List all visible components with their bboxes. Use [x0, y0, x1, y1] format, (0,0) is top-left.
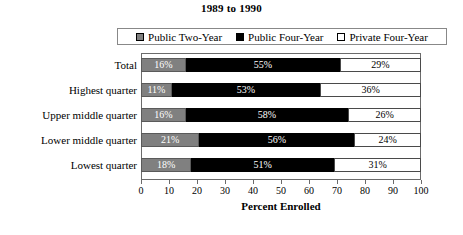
bar-segment-private-four-year[interactable]: 24%: [354, 133, 421, 147]
bar-segment-private-four-year[interactable]: 36%: [320, 83, 421, 97]
legend-label-public-two-year: Public Two-Year: [148, 31, 222, 43]
chart-legend: Public Two-Year Public Four-Year Private…: [117, 28, 447, 45]
x-axis-tick: [141, 180, 142, 184]
x-axis-tick-label: 100: [401, 185, 441, 197]
category-label: Lower middle quarter: [0, 133, 137, 147]
x-axis-tick: [421, 180, 422, 184]
legend-label-private-four-year: Private Four-Year: [349, 31, 427, 43]
bar-row[interactable]: 21%56%24%: [141, 133, 421, 147]
legend-entry-public-four-year: Public Four-Year: [236, 31, 323, 43]
chart-title: 1989 to 1990: [0, 2, 463, 14]
bar-segment-public-four-year[interactable]: 58%: [186, 108, 348, 122]
bar-segment-public-two-year[interactable]: 16%: [141, 58, 186, 72]
x-axis-tick: [197, 180, 198, 184]
x-axis-tick-labels: 0102030405060708090100: [121, 185, 441, 199]
x-axis-tick: [253, 180, 254, 184]
bar-row[interactable]: 11%53%36%: [141, 83, 421, 97]
legend-swatch-icon-public-four-year: [236, 33, 244, 41]
legend-label-public-four-year: Public Four-Year: [248, 31, 323, 43]
x-axis-tick: [169, 180, 170, 184]
bar-segment-public-two-year[interactable]: 11%: [141, 83, 172, 97]
bar-segment-public-four-year[interactable]: 56%: [199, 133, 354, 147]
bar-segment-private-four-year[interactable]: 29%: [340, 58, 421, 72]
x-axis-tick: [365, 180, 366, 184]
category-label: Total: [0, 58, 137, 72]
bar-row[interactable]: 16%55%29%: [141, 58, 421, 72]
legend-entry-public-two-year: Public Two-Year: [136, 31, 222, 43]
x-axis-tick: [337, 180, 338, 184]
bars-layer: 16%55%29%11%53%36%16%58%26%21%56%24%18%5…: [141, 53, 421, 180]
category-label: Lowest quarter: [0, 158, 137, 172]
bar-row[interactable]: 16%58%26%: [141, 108, 421, 122]
bar-segment-private-four-year[interactable]: 26%: [348, 108, 421, 122]
bar-segment-public-four-year[interactable]: 51%: [191, 158, 334, 172]
bar-segment-public-two-year[interactable]: 16%: [141, 108, 186, 122]
bar-row[interactable]: 18%51%31%: [141, 158, 421, 172]
x-axis-tick: [309, 180, 310, 184]
category-label: Upper middle quarter: [0, 108, 137, 122]
x-axis-tick: [393, 180, 394, 184]
x-axis-title: Percent Enrolled: [141, 200, 421, 212]
x-axis-tick: [281, 180, 282, 184]
x-axis-tick: [225, 180, 226, 184]
bar-segment-public-four-year[interactable]: 53%: [172, 83, 320, 97]
bar-segment-public-four-year[interactable]: 55%: [186, 58, 340, 72]
legend-swatch-icon-private-four-year: [337, 33, 345, 41]
legend-swatch-icon-public-two-year: [136, 33, 144, 41]
bar-segment-private-four-year[interactable]: 31%: [334, 158, 421, 172]
category-axis-labels: TotalHighest quarterUpper middle quarter…: [0, 53, 137, 180]
bar-segment-public-two-year[interactable]: 21%: [141, 133, 199, 147]
category-label: Highest quarter: [0, 83, 137, 97]
bar-segment-public-two-year[interactable]: 18%: [141, 158, 191, 172]
legend-entry-private-four-year: Private Four-Year: [337, 31, 427, 43]
